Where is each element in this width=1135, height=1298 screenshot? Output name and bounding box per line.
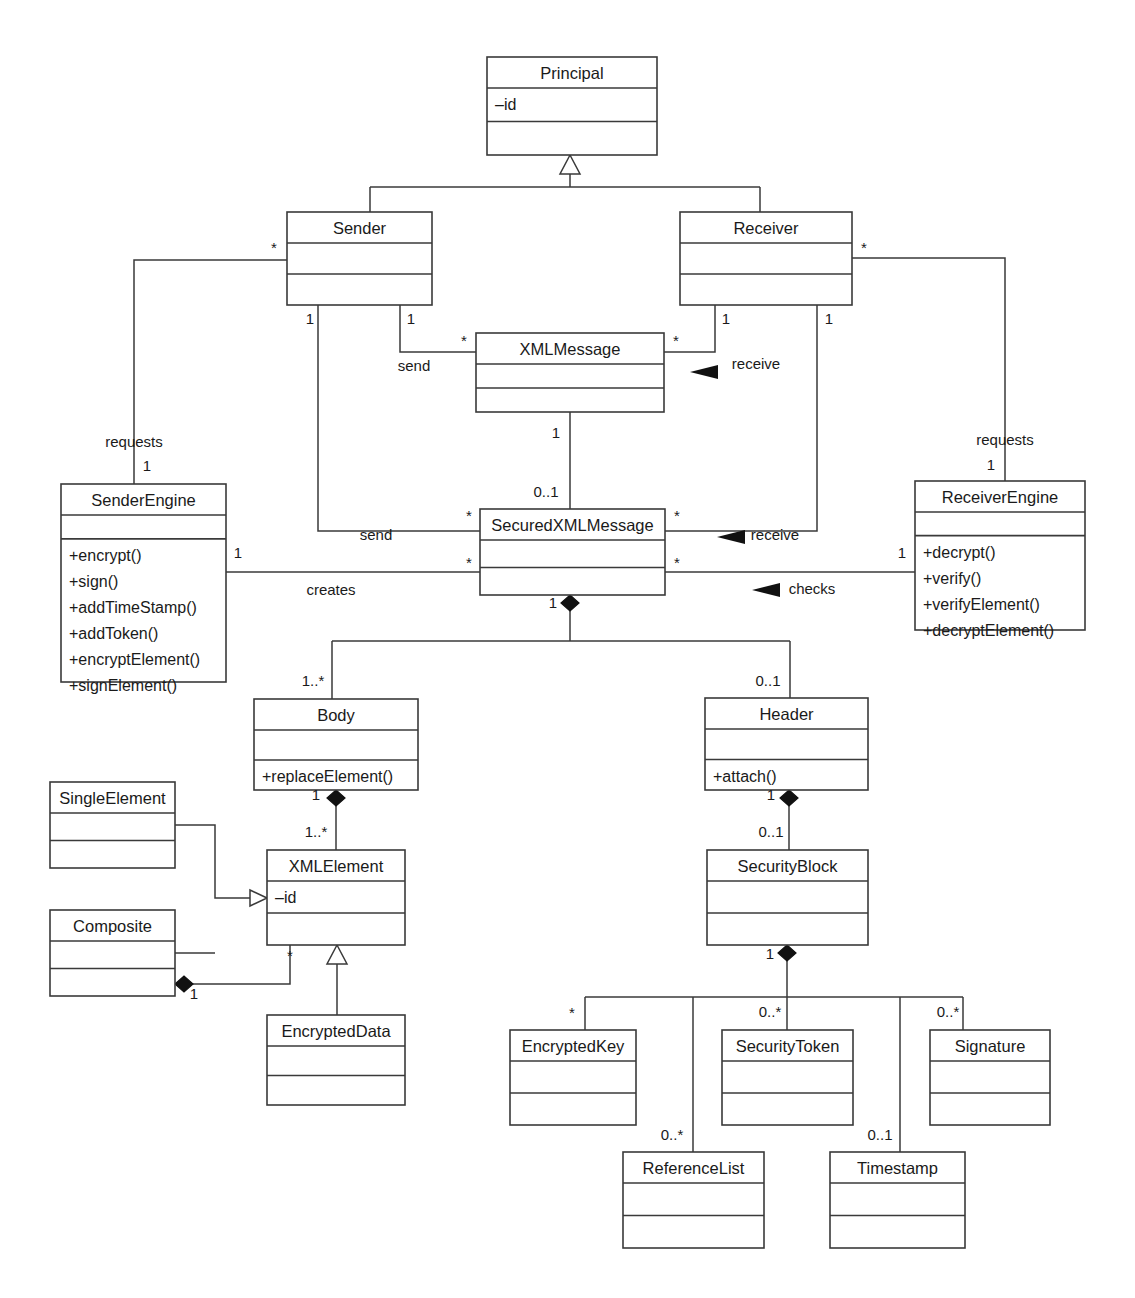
class-operation: +addTimeStamp() [69,599,197,616]
class-name-securedxml: SecuredXMLMessage [491,516,653,534]
multiplicity-m-sender-left: * [271,239,277,256]
multiplicity-m-header-bottom: 1 [767,786,775,803]
multiplicity-m-body-bottom: 1 [312,786,320,803]
multiplicity-m-timestamp: 0..1 [867,1126,892,1143]
class-box-composite[interactable]: Composite [50,910,175,996]
class-operation: +encrypt() [69,547,141,564]
multiplicity-m-sender-b2: 1 [407,310,415,327]
class-name-singleelement: SingleElement [59,789,166,807]
multiplicity-m-signature: 0..* [937,1003,960,1020]
class-box-xmlelement[interactable]: XMLElement–id [267,850,405,945]
class-operation: +verify() [923,570,981,587]
generalization-elements-xmlelement [175,825,267,953]
assoc-sender-requests-senderengine [134,260,287,484]
class-box-header[interactable]: Header+attach() [705,698,868,790]
multiplicity-m-secured-top: 0..1 [533,483,558,500]
multiplicity-m-xml-right: * [673,332,679,349]
composition-body-xmlelement [327,790,345,850]
class-name-composite: Composite [73,917,152,935]
class-box-body[interactable]: Body+replaceElement() [254,699,418,790]
generalization-xmlelement-encrypteddata [327,945,347,1015]
composition-diamond-icon [327,790,345,806]
class-box-referencelist[interactable]: ReferenceList [623,1152,764,1248]
role-label-role-requests-right: requests [976,431,1034,448]
class-box-receiver[interactable]: Receiver [680,212,852,305]
multiplicity-m-referencelist: 0..* [661,1126,684,1143]
multiplicity-m-securityblock-b: 1 [766,945,774,962]
multiplicity-m-secured-r2: * [674,554,680,571]
class-operation: +encryptElement() [69,651,200,668]
navigation-arrow-icon [690,365,718,379]
class-name-sender: Sender [333,219,387,237]
multiplicity-m-securitytoken: 0..* [759,1003,782,1020]
role-label-role-checks: checks [789,580,836,597]
role-label-role-send-secured: send [360,526,393,543]
multiplicity-m-securityblock-top: 0..1 [758,823,783,840]
class-name-body: Body [317,706,355,724]
generalization-triangle-icon [250,890,267,906]
class-box-singleelement[interactable]: SingleElement [50,782,175,868]
role-label-role-send-xml: send [398,357,431,374]
class-box-principal[interactable]: Principal–id [487,57,657,155]
multiplicity-m-senderengine-r: 1 [234,544,242,561]
multiplicity-m-senderengine-top: 1 [143,457,151,474]
class-attribute: –id [275,889,296,906]
class-name-securityblock: SecurityBlock [738,857,839,875]
navigation-arrow-icon [752,583,780,597]
class-box-encrypteddata[interactable]: EncryptedData [267,1015,405,1105]
class-name-signature: Signature [955,1037,1026,1055]
class-box-receiverengine[interactable]: ReceiverEngine+decrypt()+verify()+verify… [915,481,1085,639]
role-label-role-receive-xml: receive [732,355,780,372]
multiplicity-m-receiver-right: * [861,239,867,256]
diagram-svg: Principal–idSenderReceiverXMLMessageSend… [0,0,1135,1298]
composition-header-securityblock [780,790,798,850]
class-box-securitytoken[interactable]: SecurityToken [722,1030,853,1125]
class-attribute: –id [495,96,516,113]
multiplicity-m-receiver-b1: 1 [722,310,730,327]
class-name-encrypteddata: EncryptedData [281,1022,391,1040]
class-name-header: Header [759,705,814,723]
multiplicity-m-xmlelement-bl: * [287,947,293,964]
class-name-referencelist: ReferenceList [643,1159,745,1177]
multiplicity-m-secured-l1: * [466,507,472,524]
multiplicity-m-secured-bottom: 1 [549,594,557,611]
class-box-signature[interactable]: Signature [930,1030,1050,1125]
multiplicity-m-composite-d: 1 [190,985,198,1002]
multiplicity-m-xml-left: * [461,332,467,349]
generalization-triangle-icon [327,945,347,964]
class-boxes: Principal–idSenderReceiverXMLMessageSend… [50,57,1085,1248]
class-name-encryptedkey: EncryptedKey [522,1037,625,1055]
class-box-encryptedkey[interactable]: EncryptedKey [510,1030,636,1125]
class-box-timestamp[interactable]: Timestamp [830,1152,965,1248]
role-label-role-requests-left: requests [105,433,163,450]
uml-class-diagram-canvas: Principal–idSenderReceiverXMLMessageSend… [0,0,1135,1298]
connectors [134,155,1005,1152]
class-name-securitytoken: SecurityToken [736,1037,840,1055]
assoc-sender-send-securedxmlmessage [318,305,480,531]
class-name-senderengine: SenderEngine [91,491,196,509]
class-operation: +addToken() [69,625,158,642]
class-name-receiverengine: ReceiverEngine [942,488,1058,506]
class-operation: +attach() [713,768,777,785]
multiplicity-m-receiver-b2: 1 [825,310,833,327]
class-box-securityblock[interactable]: SecurityBlock [707,850,868,945]
class-name-timestamp: Timestamp [857,1159,938,1177]
composition-diamond-icon [561,595,579,611]
class-operation: +verifyElement() [923,596,1040,613]
generalization-triangle-icon [560,155,580,174]
class-box-sender[interactable]: Sender [287,212,432,305]
multiplicity-m-xml-bottom: 1 [552,424,560,441]
role-label-role-creates: creates [306,581,355,598]
class-name-receiver: Receiver [733,219,799,237]
class-name-xmlelement: XMLElement [289,857,384,875]
class-box-senderengine[interactable]: SenderEngine+encrypt()+sign()+addTimeSta… [61,484,226,694]
navigation-arrow-icon [717,530,745,544]
generalization-principal [370,155,760,212]
composition-securedxmlmessage-body-header [332,595,790,699]
class-box-securedxml[interactable]: SecuredXMLMessage [480,509,665,595]
composition-diamond-icon [778,945,796,961]
class-box-xmlmessage[interactable]: XMLMessage [476,333,664,412]
class-operation: +decrypt() [923,544,995,561]
multiplicity-m-xmlelement-top: 1..* [305,823,328,840]
multiplicity-m-secured-l2: * [466,554,472,571]
